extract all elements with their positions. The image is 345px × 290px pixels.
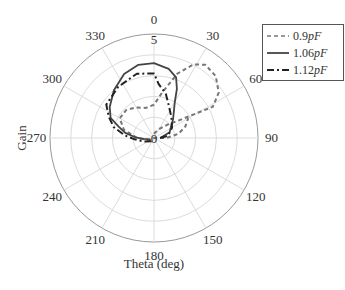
angle-tick-210: 210	[85, 232, 105, 247]
legend-item-0.9pf: 0.9pF	[267, 28, 321, 44]
x-axis-title: Theta (deg)	[124, 256, 184, 271]
legend-label-unit: pF	[308, 29, 321, 43]
angle-tick-120: 120	[246, 189, 266, 204]
angle-tick-330: 330	[85, 28, 105, 43]
y-axis-title: Gain	[14, 125, 29, 151]
solid-line-icon	[267, 49, 289, 57]
legend-item-1.12pf: 1.12pF	[267, 62, 327, 78]
legend-label-unit: pF	[314, 46, 327, 60]
legend-label-value: 1.06	[293, 46, 314, 60]
angle-tick-270: 270	[27, 130, 47, 145]
angle-tick-0: 0	[151, 12, 158, 27]
legend-label-value: 0.9	[293, 29, 308, 43]
angle-tick-300: 300	[42, 71, 62, 86]
angle-tick-90: 90	[265, 130, 278, 145]
plot-series	[106, 63, 218, 142]
legend: 0.9pF 1.06pF 1.12pF	[262, 24, 344, 81]
dashdot-line-icon	[267, 66, 289, 74]
angle-tick-30: 30	[206, 28, 219, 43]
legend-item-1.06pf: 1.06pF	[267, 45, 327, 61]
radial-tick-label-outer: 5	[151, 32, 158, 47]
legend-label-unit: pF	[314, 63, 327, 77]
angle-tick-150: 150	[203, 232, 223, 247]
dashed-line-icon	[267, 32, 289, 40]
radial-tick-label-inner: 0	[151, 131, 158, 146]
angle-tick-60: 60	[249, 71, 262, 86]
angle-tick-240: 240	[42, 189, 62, 204]
legend-label-value: 1.12	[293, 63, 314, 77]
